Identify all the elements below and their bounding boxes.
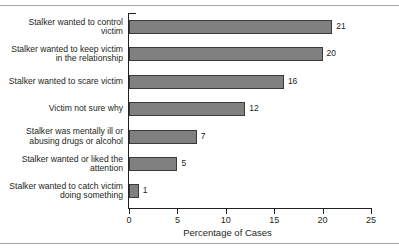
bar[interactable]: [129, 20, 332, 34]
category-label: Stalker wanted to keep victim in the rel…: [5, 45, 123, 64]
bar-row: 20: [129, 41, 371, 68]
x-axis-title: Percentage of Cases: [0, 227, 399, 238]
x-tick: [177, 209, 178, 214]
bar[interactable]: [129, 47, 323, 61]
bar-row: 12: [129, 96, 371, 123]
bar-value-label: 1: [143, 183, 148, 197]
x-tick-label: 25: [359, 215, 383, 225]
x-tick-label: 10: [214, 215, 238, 225]
bar[interactable]: [129, 130, 197, 144]
category-label: Victim not sure why: [5, 104, 123, 114]
x-axis-line: [128, 208, 372, 209]
bar-row: 16: [129, 69, 371, 96]
bar-row: 7: [129, 124, 371, 151]
bar-value-label: 16: [288, 74, 297, 88]
bar[interactable]: [129, 75, 284, 89]
category-label: Stalker wanted or liked the attention: [5, 155, 123, 174]
category-label: Stalker wanted to control victim: [5, 18, 123, 37]
x-tick: [371, 209, 372, 214]
bar-row: 1: [129, 178, 371, 205]
x-tick: [323, 209, 324, 214]
x-tick-label: 5: [165, 215, 189, 225]
bar-value-label: 21: [336, 19, 345, 33]
bar[interactable]: [129, 184, 139, 198]
category-label: Stalker wanted to catch victim doing som…: [5, 182, 123, 201]
x-tick: [129, 209, 130, 214]
bar[interactable]: [129, 102, 245, 116]
bar-row: 5: [129, 151, 371, 178]
x-tick-label: 20: [311, 215, 335, 225]
bottom-divider-rule: [0, 243, 399, 244]
bar-row: 21: [129, 14, 371, 41]
bar-value-label: 5: [181, 156, 186, 170]
category-label: Stalker wanted to scare victim: [5, 77, 123, 87]
plot-area: 21201612751: [129, 14, 371, 207]
bar[interactable]: [129, 157, 177, 171]
chart-figure: 21201612751 Stalker wanted to control vi…: [0, 0, 399, 252]
top-divider-rule: [0, 5, 399, 6]
x-tick: [226, 209, 227, 214]
x-tick-label: 0: [117, 215, 141, 225]
category-label: Stalker was mentally ill or abusing drug…: [5, 127, 123, 146]
x-tick-label: 15: [262, 215, 286, 225]
cropped-header-text: [0, 0, 399, 3]
bar-value-label: 7: [201, 129, 206, 143]
x-tick: [274, 209, 275, 214]
bar-value-label: 12: [249, 101, 258, 115]
bar-value-label: 20: [327, 46, 336, 60]
